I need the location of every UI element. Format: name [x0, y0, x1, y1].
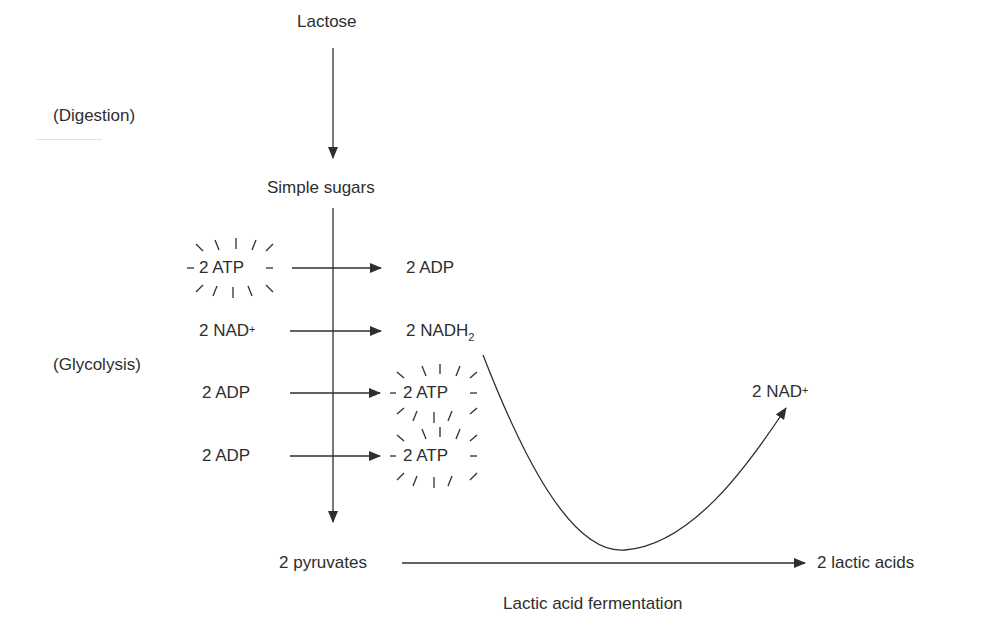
- step1-output-adp: 2 ADP: [406, 258, 454, 278]
- lactose-node: Lactose: [297, 12, 357, 32]
- lactic-acids-node: 2 lactic acids: [817, 553, 914, 573]
- digestion-label: (Digestion): [53, 106, 135, 126]
- nad-regeneration-curve: [483, 355, 786, 550]
- nad-text: 2 NAD: [199, 321, 249, 340]
- step4-input-adp: 2 ADP: [202, 446, 250, 466]
- nadh-text: 2 NADH: [406, 321, 468, 340]
- nad-text: 2 NAD: [752, 382, 802, 401]
- step3-input-adp: 2 ADP: [202, 383, 250, 403]
- nad-superscript: +: [249, 323, 255, 335]
- step2-output-nadh2: 2 NADH2: [406, 321, 474, 341]
- pyruvates-node: 2 pyruvates: [279, 553, 367, 573]
- fermentation-label: Lactic acid fermentation: [503, 594, 683, 614]
- diagram-lines: [0, 0, 983, 637]
- step2-input-nad: 2 NAD+: [199, 321, 256, 341]
- glycolysis-label: (Glycolysis): [53, 355, 141, 375]
- step3-output-atp: 2 ATP: [403, 383, 448, 403]
- nadh-subscript: 2: [468, 331, 474, 343]
- scan-artifact: [36, 139, 102, 140]
- nad-superscript: +: [802, 384, 808, 396]
- step1-input-atp: 2 ATP: [199, 258, 244, 278]
- regenerated-nad: 2 NAD+: [752, 382, 809, 402]
- step4-output-atp: 2 ATP: [403, 446, 448, 466]
- simple-sugars-node: Simple sugars: [267, 178, 375, 198]
